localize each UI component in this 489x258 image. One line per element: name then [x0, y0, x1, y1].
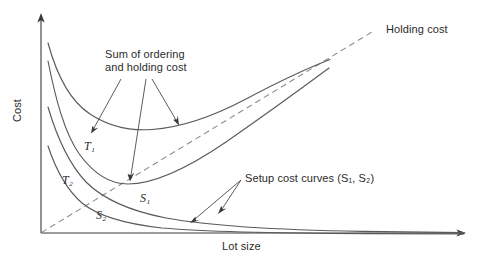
sum-leader-3	[152, 79, 176, 120]
setup-leader-2	[222, 180, 241, 209]
curve-label-s2: S₂	[96, 209, 106, 222]
curve-label-t2: T₂	[62, 174, 73, 187]
sum-cost-annotation-line1: Sum of ordering	[105, 48, 187, 61]
setup-annotation-leaders	[190, 180, 241, 223]
sum-leader-1	[94, 79, 121, 128]
sum-annotation-leaders	[91, 79, 179, 182]
curve-label-t1: T₁	[84, 140, 95, 153]
y-axis-title: Cost	[11, 99, 24, 122]
curve-label-s1: S₁	[140, 192, 150, 205]
s2-curve	[48, 146, 464, 234]
holding-cost-annotation: Holding cost	[386, 23, 448, 36]
axes-group	[37, 13, 466, 237]
chart-figure: Cost Lot size Holding cost Sum of orderi…	[0, 0, 489, 258]
sum-leader-2	[131, 79, 146, 175]
series-s1	[48, 107, 464, 233]
s1-curve	[48, 107, 464, 233]
x-axis-title: Lot size	[222, 240, 261, 253]
setup-cost-annotation: Setup cost curves (S₁, S₂)	[245, 172, 374, 185]
series-t1	[48, 43, 330, 130]
setup-leader-1	[195, 180, 241, 219]
t1-curve	[48, 43, 330, 130]
series-s2	[48, 146, 464, 234]
sum-cost-annotation-line2: and holding cost	[105, 61, 187, 74]
sum-cost-annotation: Sum of ordering and holding cost	[105, 48, 187, 74]
chart-canvas	[0, 0, 489, 258]
setup-leader-2-arrowhead	[218, 206, 226, 214]
